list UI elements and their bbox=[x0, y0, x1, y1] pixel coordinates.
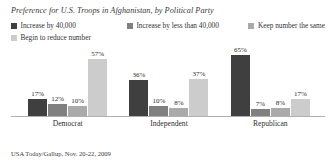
legend-swatch-keep-number-the-same bbox=[248, 23, 254, 29]
bar-value-label: 17% bbox=[31, 90, 44, 98]
bar-column: 17% bbox=[28, 46, 47, 116]
chart-figure: Preference for U.S. Troops in Afghanista… bbox=[0, 0, 333, 163]
bar-value-label: 10% bbox=[153, 97, 166, 105]
bar-value-label: 10% bbox=[71, 97, 84, 105]
legend-swatch-increase-by-40000 bbox=[11, 23, 17, 29]
bar-value-label: 17% bbox=[294, 90, 307, 98]
chart-title: Preference for U.S. Troops in Afghanista… bbox=[11, 6, 325, 16]
legend-swatch-begin-to-reduce-number bbox=[11, 35, 17, 41]
bar-groups: 17%12%10%57%36%10%8%37%65%7%8%17% bbox=[17, 46, 321, 116]
legend-swatch-increase-by-less-than-40000 bbox=[127, 23, 133, 29]
bar-value-label: 8% bbox=[174, 99, 183, 107]
bar-group: 36%10%8%37% bbox=[129, 46, 209, 116]
legend-item-increase-by-less-than-40000: Increase by less than 40,000 bbox=[127, 22, 248, 30]
legend-item-begin-to-reduce-number: Begin to reduce number bbox=[11, 34, 157, 42]
bar-value-label: 37% bbox=[193, 70, 206, 78]
bar-column: 10% bbox=[68, 46, 87, 116]
chart-legend: Increase by 40,000 Increase by less than… bbox=[11, 20, 325, 43]
bar-group: 17%12%10%57% bbox=[28, 46, 108, 116]
bar bbox=[48, 104, 67, 116]
bar-column: 10% bbox=[149, 46, 168, 116]
plot-area: 17%12%10%57%36%10%8%37%65%7%8%17% Democr… bbox=[11, 46, 325, 130]
legend-label-keep-number-the-same: Keep number the same bbox=[258, 22, 325, 30]
bar bbox=[28, 99, 47, 116]
bar-group: 65%7%8%17% bbox=[230, 46, 310, 116]
category-label: Independent bbox=[127, 118, 211, 130]
legend-row-2: Begin to reduce number bbox=[11, 32, 325, 43]
category-labels: DemocratIndependentRepublican bbox=[17, 118, 321, 130]
x-axis-line bbox=[11, 116, 325, 117]
bar bbox=[169, 108, 188, 116]
bar-value-label: 36% bbox=[133, 71, 146, 79]
legend-row-1: Increase by 40,000 Increase by less than… bbox=[11, 20, 325, 31]
bar bbox=[68, 106, 87, 116]
bar-column: 7% bbox=[251, 46, 270, 116]
bar bbox=[231, 55, 250, 116]
bar-value-label: 7% bbox=[256, 100, 265, 108]
bar bbox=[149, 106, 168, 116]
bar-column: 37% bbox=[189, 46, 208, 116]
category-label: Democrat bbox=[26, 118, 110, 130]
bar-value-label: 12% bbox=[51, 95, 64, 103]
bar-value-label: 65% bbox=[234, 46, 247, 54]
bar bbox=[129, 80, 148, 116]
bar bbox=[88, 59, 107, 116]
bar bbox=[291, 99, 310, 116]
legend-label-increase-by-less-than-40000: Increase by less than 40,000 bbox=[136, 22, 218, 30]
bar bbox=[271, 108, 290, 116]
legend-item-keep-number-the-same: Keep number the same bbox=[248, 22, 325, 30]
category-label: Republican bbox=[228, 118, 312, 130]
bar-column: 57% bbox=[88, 46, 107, 116]
bar bbox=[189, 79, 208, 116]
bar-value-label: 57% bbox=[91, 50, 104, 58]
bar-column: 65% bbox=[231, 46, 250, 116]
bar-column: 8% bbox=[271, 46, 290, 116]
legend-item-increase-by-40000: Increase by 40,000 bbox=[11, 22, 127, 30]
bar bbox=[251, 109, 270, 116]
legend-label-increase-by-40000: Increase by 40,000 bbox=[21, 22, 76, 30]
bar-column: 8% bbox=[169, 46, 188, 116]
source-note: USA Today/Gallup, Nov. 20-22, 2009 bbox=[11, 150, 111, 158]
legend-label-begin-to-reduce-number: Begin to reduce number bbox=[21, 34, 91, 42]
bar-column: 17% bbox=[291, 46, 310, 116]
bar-column: 36% bbox=[129, 46, 148, 116]
bar-value-label: 8% bbox=[276, 99, 285, 107]
bar-column: 12% bbox=[48, 46, 67, 116]
